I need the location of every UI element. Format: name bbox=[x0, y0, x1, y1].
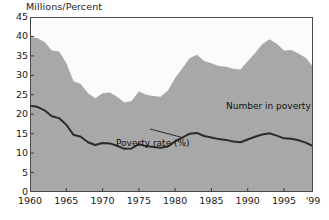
x-tick-label: 1975 bbox=[127, 195, 151, 206]
y-tick-label: 30 bbox=[6, 70, 28, 80]
x-tick-label: 1995 bbox=[272, 195, 296, 206]
x-tick-label: 1965 bbox=[54, 195, 78, 206]
x-axis-tick-labels: 19601965197019751980198519901995'99 bbox=[0, 195, 329, 215]
y-tick-label: 45 bbox=[6, 12, 28, 22]
x-tick-label: 1960 bbox=[18, 195, 42, 206]
y-tick-label: 25 bbox=[6, 90, 28, 100]
y-tick-label: 40 bbox=[6, 31, 28, 41]
y-tick-label: 10 bbox=[6, 148, 28, 158]
y-tick-label: 5 bbox=[6, 168, 28, 178]
poverty-chart-figure: Millions/Percent 051015202530354045 Numb… bbox=[0, 0, 329, 220]
annotation-poverty-rate: Poverty rate (%) bbox=[116, 138, 190, 148]
x-tick-label: '99 bbox=[306, 195, 321, 206]
x-tick-label: 1990 bbox=[236, 195, 260, 206]
y-tick-label: 15 bbox=[6, 129, 28, 139]
annotation-number-in-poverty: Number in poverty bbox=[226, 101, 311, 111]
y-axis-title: Millions/Percent bbox=[26, 1, 102, 12]
y-axis-tick-labels: 051015202530354045 bbox=[2, 0, 28, 220]
x-tick-label: 1985 bbox=[199, 195, 223, 206]
y-tick-label: 20 bbox=[6, 109, 28, 119]
plot-area: Number in poverty Poverty rate (%) bbox=[30, 17, 313, 192]
x-tick-label: 1980 bbox=[163, 195, 187, 206]
y-tick-label: 35 bbox=[6, 51, 28, 61]
x-tick-label: 1970 bbox=[90, 195, 114, 206]
